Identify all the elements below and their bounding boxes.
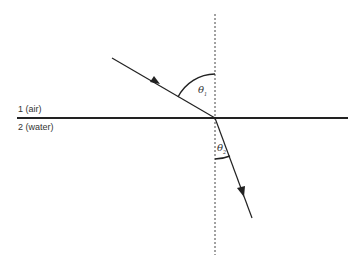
- incident-angle-arc: [178, 74, 215, 97]
- theta-subscript: 2: [223, 149, 226, 155]
- refracted-ray: [215, 118, 252, 218]
- theta-subscript: 1: [204, 91, 207, 97]
- medium-1-label: 1 (air): [18, 104, 42, 114]
- incident-angle-label: θ1: [198, 84, 207, 97]
- refracted-arrow-icon: [237, 186, 245, 197]
- refraction-diagram: 1 (air) 2 (water) θ1 θ2: [0, 0, 363, 265]
- incident-arrow-icon: [150, 76, 160, 84]
- refracted-angle-arc: [215, 156, 230, 159]
- medium-2-label: 2 (water): [18, 122, 54, 132]
- refracted-angle-label: θ2: [217, 142, 226, 155]
- diagram-canvas: [0, 0, 363, 265]
